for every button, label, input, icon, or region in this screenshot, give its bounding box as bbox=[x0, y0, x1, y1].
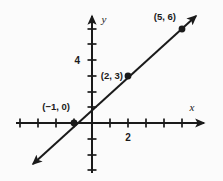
x-tick-label-2: 2 bbox=[125, 132, 131, 143]
data-point-minus1-0 bbox=[71, 120, 78, 127]
y-tick-label-4: 4 bbox=[74, 55, 80, 66]
point-label-minus1-0: (−1, 0) bbox=[42, 101, 70, 112]
point-label-5-6: (5, 6) bbox=[154, 11, 176, 22]
x-axis-label: x bbox=[189, 101, 195, 113]
coordinate-plane-svg: x 2 y 4 bbox=[0, 0, 223, 181]
data-point-2-3 bbox=[125, 73, 132, 80]
graph-figure: x 2 y 4 bbox=[0, 0, 223, 181]
plotted-line-group bbox=[33, 16, 196, 164]
point-labels-group: (−1, 0) (2, 3) (5, 6) bbox=[42, 11, 176, 112]
data-point-5-6 bbox=[179, 26, 186, 33]
y-axis-label: y bbox=[101, 13, 107, 25]
plotted-line bbox=[33, 16, 196, 164]
y-axis-group: y 4 bbox=[74, 13, 106, 173]
point-label-2-3: (2, 3) bbox=[101, 70, 123, 81]
